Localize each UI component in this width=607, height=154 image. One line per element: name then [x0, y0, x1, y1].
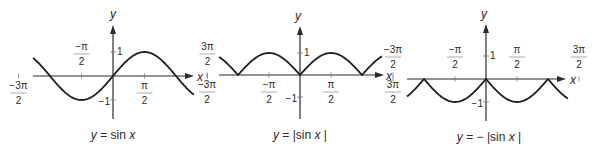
x-tick-label-fraction: 3π2 — [199, 41, 215, 67]
x-tick-label-fraction: −3π2 — [9, 80, 27, 106]
x-tick-denominator: 2 — [576, 59, 582, 70]
caption-x-var: x — [128, 128, 136, 142]
x-tick-numerator: 3π — [201, 41, 214, 52]
x-axis-arrow-icon — [185, 73, 194, 79]
y-tick-label: 1 — [490, 50, 496, 61]
x-tick-denominator: 2 — [204, 94, 210, 105]
x-tick-numerator: −3π — [384, 44, 402, 55]
y-tick-label: −1 — [286, 93, 298, 104]
x-tick-numerator: π — [514, 44, 521, 55]
x-axis-arrow-icon — [557, 76, 566, 82]
x-tick-denominator: 2 — [205, 56, 211, 67]
x-tick-numerator: π — [328, 79, 335, 90]
x-tick-label-fraction: −3π2 — [198, 79, 216, 105]
graph-neg-abs-sin-x: yx1−1−3π2−π2π23π2y = − |sin x | — [384, 7, 587, 144]
x-tick-denominator: 2 — [390, 94, 396, 105]
x-axis-label: x — [569, 73, 577, 87]
graph-caption: y = |sin x | — [272, 128, 327, 142]
x-tick-label-fraction: π2 — [136, 80, 152, 106]
x-tick-denominator: 2 — [266, 94, 272, 105]
y-axis-arrow-icon — [483, 24, 489, 33]
x-tick-denominator: 2 — [452, 59, 458, 70]
function-curve — [407, 79, 568, 102]
y-tick-label: −1 — [472, 98, 484, 109]
x-tick-numerator: −π — [449, 44, 462, 55]
x-tick-denominator: 2 — [390, 59, 396, 70]
x-tick-denominator: 2 — [16, 95, 22, 106]
caption-expression: = |sin — [279, 128, 314, 142]
x-tick-denominator: 2 — [328, 94, 334, 105]
x-tick-denominator: 2 — [79, 56, 85, 67]
x-tick-label-fraction: π2 — [323, 79, 339, 105]
y-axis-label: y — [480, 7, 488, 21]
caption-expression: = − |sin — [463, 130, 509, 144]
figure-three-sine-graphs: yx1−1−3π2−π2π23π2y = sin x yx1−1−3π2−π2π… — [0, 0, 607, 154]
x-tick-label-fraction: −π2 — [447, 44, 463, 70]
x-tick-label-fraction: 3π2 — [571, 44, 587, 70]
graph-abs-sin-x: yx1−1−3π2−π2π23π2y = |sin x | — [198, 9, 401, 142]
x-tick-numerator: 3π — [573, 44, 586, 55]
graph-sin-x: yx1−1−3π2−π2π23π2y = sin x — [9, 7, 215, 142]
y-axis-label: y — [109, 7, 117, 21]
x-tick-denominator: 2 — [142, 95, 148, 106]
x-tick-label-fraction: π2 — [509, 44, 525, 70]
x-tick-numerator: −3π — [9, 80, 27, 91]
x-tick-denominator: 2 — [514, 59, 520, 70]
x-tick-numerator: π — [141, 80, 148, 91]
y-tick-label: −1 — [99, 96, 111, 107]
x-tick-label-fraction: −π2 — [261, 79, 277, 105]
x-tick-numerator: −π — [263, 79, 276, 90]
x-tick-label-fraction: 3π2 — [385, 79, 401, 105]
y-axis-arrow-icon — [297, 26, 303, 35]
y-axis-arrow-icon — [110, 25, 116, 34]
caption-tail: | — [515, 130, 521, 144]
y-tick-label: 1 — [304, 47, 310, 58]
caption-tail: | — [321, 128, 327, 142]
y-tick-label: 1 — [117, 46, 123, 57]
x-tick-numerator: −π — [75, 41, 88, 52]
y-axis-label: y — [294, 9, 302, 23]
graph-caption: y = − |sin x | — [456, 130, 521, 144]
x-tick-label-fraction: −π2 — [74, 41, 90, 67]
caption-expression: = sin — [97, 128, 129, 142]
x-tick-label-fraction: −3π2 — [384, 44, 402, 70]
x-tick-numerator: −3π — [198, 79, 216, 90]
graph-caption: y = sin x — [90, 128, 136, 142]
x-axis-arrow-icon — [375, 72, 384, 78]
